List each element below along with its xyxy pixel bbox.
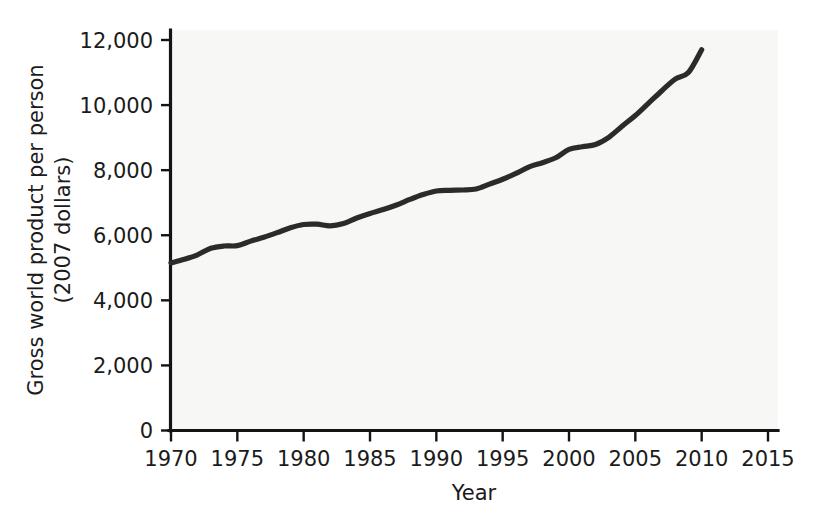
y-tick-label: 8,000 [93, 159, 153, 183]
x-tick-label: 1990 [410, 447, 463, 471]
x-tick-label: 2010 [675, 447, 728, 471]
x-tick-label: 2005 [609, 447, 662, 471]
x-axis-tick-marks [171, 432, 768, 442]
y-axis-title-line2: (2007 dollars) [51, 157, 75, 304]
y-tick-label: 2,000 [93, 354, 153, 378]
y-tick-label: 10,000 [80, 94, 153, 118]
x-axis-tick-labels: 1970197519801985199019952000200520102015 [144, 447, 794, 471]
plot-background [171, 30, 778, 430]
y-tick-label: 6,000 [93, 224, 153, 248]
y-tick-label: 0 [140, 419, 153, 443]
x-tick-label: 1985 [343, 447, 396, 471]
x-tick-label: 1995 [476, 447, 529, 471]
x-tick-label: 1970 [144, 447, 197, 471]
chart-container: 02,0004,0006,0008,00010,00012,000 197019… [0, 0, 827, 517]
x-tick-label: 1980 [277, 447, 330, 471]
y-tick-label: 4,000 [93, 289, 153, 313]
y-axis-title-line1: Gross world product per person [24, 64, 48, 395]
y-axis-tick-marks [161, 40, 170, 431]
y-axis-tick-labels: 02,0004,0006,0008,00010,00012,000 [80, 29, 153, 444]
line-chart: 02,0004,0006,0008,00010,00012,000 197019… [0, 0, 827, 517]
y-tick-label: 12,000 [80, 29, 153, 53]
x-tick-label: 2000 [542, 447, 595, 471]
x-tick-label: 1975 [211, 447, 264, 471]
x-tick-label: 2015 [741, 447, 794, 471]
x-axis-title: Year [451, 481, 497, 505]
